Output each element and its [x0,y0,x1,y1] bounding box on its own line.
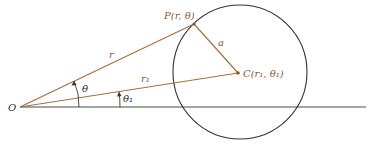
label-radius-a: a [218,37,224,48]
label-segment-r: r [109,49,115,60]
point-c-dot [236,71,240,75]
segment-r [20,24,194,107]
label-angle-theta: θ [82,83,88,94]
label-segment-r1: r₁ [141,73,150,84]
angle-theta1-arrowhead [117,92,122,97]
label-point-c: C(r₁, θ₁) [243,68,284,79]
label-angle-theta1: θ₁ [123,93,133,104]
point-p-dot [192,22,195,25]
label-origin: O [8,102,16,113]
segment-a [194,24,238,73]
label-point-p: P(r, θ) [163,10,195,21]
polar-circle-diagram: O P(r, θ) C(r₁, θ₁) a r r₁ θ θ₁ [0,0,371,145]
